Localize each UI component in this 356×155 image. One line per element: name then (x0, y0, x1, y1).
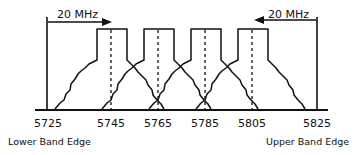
tick-label-5765: 5765 (144, 117, 172, 130)
channel-spectrum-diagram (0, 0, 356, 155)
channel-mask-5785 (149, 29, 258, 109)
left-bandwidth-label: 20 MHz (57, 8, 98, 21)
tick-label-5745: 5745 (97, 117, 125, 130)
channel-mask-5765 (102, 29, 211, 109)
right-bandwidth-label: 20 MHz (268, 8, 309, 21)
tick-label-5785: 5785 (191, 117, 219, 130)
upper-band-edge-label: Upper Band Edge (266, 136, 349, 147)
lower-band-edge-label: Lower Band Edge (8, 136, 91, 147)
channel-mask-5745 (55, 29, 164, 109)
tick-label-5725: 5725 (34, 117, 62, 130)
tick-label-5825: 5825 (303, 117, 331, 130)
tick-label-5805: 5805 (238, 117, 266, 130)
channel-mask-5805 (196, 29, 305, 109)
